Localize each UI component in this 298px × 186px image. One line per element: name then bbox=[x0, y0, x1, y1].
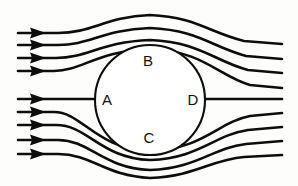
arrowhead-icon-3 bbox=[30, 53, 46, 64]
streamline-9 bbox=[18, 154, 282, 178]
flow-field-canvas: A B C D bbox=[0, 0, 298, 186]
inlet-arrowheads-group bbox=[30, 28, 46, 160]
streamline-flow-diagram: A B C D bbox=[0, 0, 298, 186]
arrowhead-icon-7 bbox=[30, 120, 46, 131]
label-point-c: C bbox=[144, 129, 155, 146]
arrowhead-icon-8 bbox=[30, 135, 46, 146]
arrowhead-icon-2 bbox=[30, 40, 46, 51]
arrowhead-icon-6 bbox=[30, 107, 46, 118]
label-point-d: D bbox=[188, 91, 199, 108]
arrowhead-icon-4 bbox=[30, 66, 46, 77]
arrowhead-icon-5 bbox=[30, 94, 46, 105]
label-point-a: A bbox=[102, 91, 112, 108]
label-point-b: B bbox=[143, 52, 153, 69]
arrowhead-icon-9 bbox=[30, 149, 46, 160]
arrowhead-icon-1 bbox=[30, 28, 46, 39]
